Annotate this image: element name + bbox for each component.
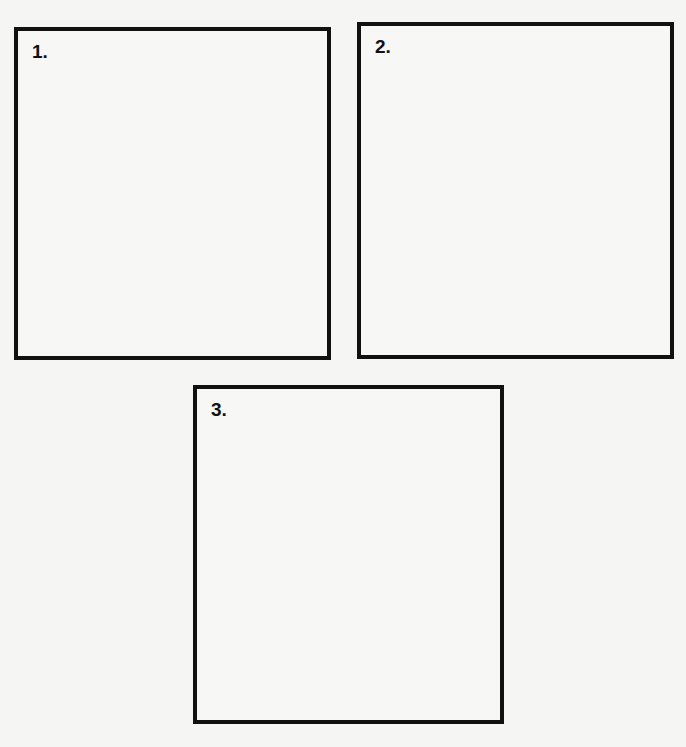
panel-2-label: 2. <box>375 36 391 58</box>
panel-2-empty-box: 2. <box>357 22 674 359</box>
panel-3-label: 3. <box>211 399 227 421</box>
panel-1-label: 1. <box>32 41 48 63</box>
panel-1-empty-box: 1. <box>14 27 331 360</box>
panel-3-empty-box: 3. <box>193 385 504 724</box>
